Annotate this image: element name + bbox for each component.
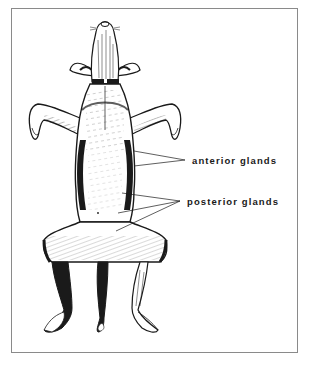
anterior-leader-lines: [134, 151, 185, 166]
head: [70, 22, 140, 85]
animal-illustration: [0, 0, 309, 365]
anterior-glands-label: anterior glands: [192, 156, 277, 166]
posterior-glands-label: posterior glands: [187, 197, 279, 207]
hindquarters: [43, 222, 166, 262]
hind-legs: [44, 262, 158, 332]
torso: [75, 84, 135, 233]
